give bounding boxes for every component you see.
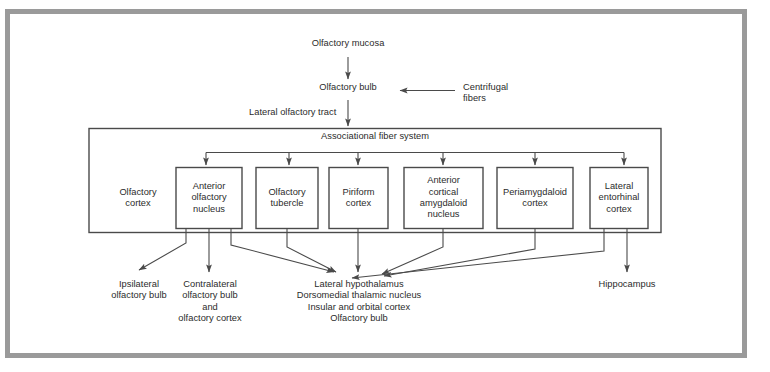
label-anterior-olfactory-nucleus: Anterior olfactory nucleus bbox=[176, 168, 242, 229]
arrow-aon-to-ipsilateral bbox=[139, 229, 186, 271]
label-olfactory-tubercle: Olfactory tubercle bbox=[256, 168, 318, 229]
label-lateral-olfactory-tract: Lateral olfactory tract bbox=[249, 107, 359, 118]
node-olfactory-bulb: Olfactory bulb bbox=[293, 82, 403, 93]
label-anterior-cortical-amygdaloid-nucleus: Anterior cortical amygdaloid nucleus bbox=[404, 168, 483, 229]
arrow-periamygdaloid-to-hypothalamus bbox=[384, 229, 535, 277]
label-piriform-cortex: Piriform cortex bbox=[329, 168, 388, 229]
label-lateral-entorhinal-cortex: Lateral entorhinal cortex bbox=[590, 168, 648, 229]
target-contralateral-olfactory-bulb: Contralateral olfactory bulb and olfacto… bbox=[152, 279, 268, 325]
label-periamygdaloid-cortex: Periamygdaloid cortex bbox=[497, 168, 573, 229]
target-hippocampus: Hippocampus bbox=[578, 279, 676, 290]
node-centrifugal-fibers: Centrifugal fibers bbox=[463, 82, 553, 105]
label-olfactory-cortex-group: Olfactory cortex bbox=[104, 172, 172, 224]
arrow-aon-to-hypothalamus bbox=[231, 229, 334, 273]
figure-root: Olfactory mucosa Olfactory bulb Centrifu… bbox=[0, 0, 770, 372]
node-olfactory-mucosa: Olfactory mucosa bbox=[288, 38, 408, 49]
label-associational-fiber-system: Associational fiber system bbox=[290, 131, 460, 142]
target-lateral-hypothalamus-group: Lateral hypothalamus Dorsomedial thalami… bbox=[276, 279, 442, 325]
arrow-tubercle-to-hypothalamus bbox=[287, 229, 336, 273]
